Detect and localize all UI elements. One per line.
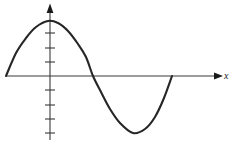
sine-curve xyxy=(6,21,172,133)
sine-wave-figure: x xyxy=(0,0,233,152)
y-axis-arrowhead-icon xyxy=(47,4,54,14)
x-axis-arrowhead-icon xyxy=(214,72,223,79)
x-axis-label: x xyxy=(223,70,229,81)
sine-wave-plot: x xyxy=(0,0,233,152)
